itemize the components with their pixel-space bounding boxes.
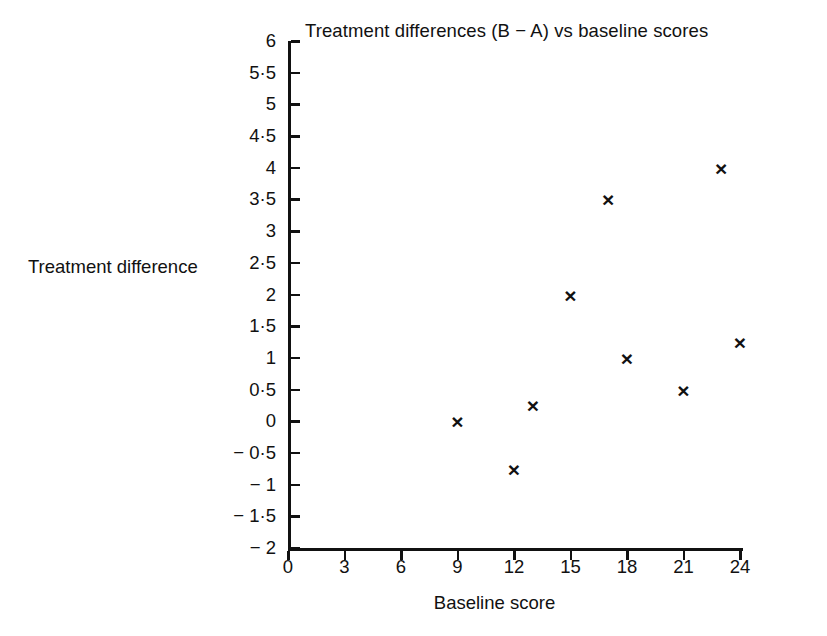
- x-tick-label: 9: [452, 558, 462, 577]
- y-tick-label: 1: [266, 349, 276, 368]
- x-tick-label-group: 03691215182124: [288, 558, 740, 588]
- x-axis-label: Baseline score: [434, 592, 555, 613]
- y-tick-label: 5·5: [249, 64, 276, 83]
- y-tick-label-group: 65·554·543·532·521·510·50− 0·5− 1− 1·5− …: [222, 41, 276, 548]
- y-tick: [291, 294, 300, 297]
- y-tick-label: 0·5: [249, 381, 276, 400]
- data-point-marker: ×: [621, 347, 633, 368]
- y-tick-label: − 2: [250, 539, 276, 558]
- y-tick: [291, 420, 300, 423]
- y-tick: [291, 484, 300, 487]
- data-point-marker: ×: [451, 411, 463, 432]
- y-tick: [291, 167, 300, 170]
- y-tick: [291, 452, 300, 455]
- y-axis-spine: [288, 41, 291, 551]
- x-tick: [400, 551, 403, 560]
- y-tick-label: 2: [266, 286, 276, 305]
- x-tick: [739, 551, 742, 560]
- y-tick: [291, 198, 300, 201]
- y-tick-label: 4: [266, 159, 276, 178]
- y-tick-label: − 0·5: [233, 444, 276, 463]
- x-axis-spine: [288, 548, 743, 551]
- y-tick-label: 4·5: [249, 127, 276, 146]
- y-tick-label: − 1: [250, 476, 276, 495]
- data-point-marker: ×: [508, 458, 520, 479]
- y-tick: [291, 262, 300, 265]
- x-tick-label: 6: [396, 558, 406, 577]
- y-tick-label: 6: [266, 32, 276, 51]
- y-tick-label: 1·5: [249, 317, 276, 336]
- chart-title: Treatment differences (B − A) vs baselin…: [305, 20, 708, 42]
- data-point-marker: ×: [734, 332, 746, 353]
- y-tick-label: 2·5: [249, 254, 276, 273]
- data-point-marker: ×: [715, 157, 727, 178]
- y-tick-label: 0: [266, 412, 276, 431]
- y-tick: [291, 103, 300, 106]
- data-point-marker: ×: [527, 395, 539, 416]
- y-axis-label: Treatment difference: [28, 256, 198, 278]
- y-tick: [291, 72, 300, 75]
- y-tick: [291, 135, 300, 138]
- x-tick: [683, 551, 686, 560]
- y-tick: [291, 40, 300, 43]
- y-tick: [291, 547, 300, 550]
- x-tick-label: 0: [283, 558, 293, 577]
- y-tick-label: 3: [266, 222, 276, 241]
- y-tick-label: 5: [266, 95, 276, 114]
- x-tick-label: 15: [560, 558, 581, 577]
- x-axis-label-container: Baseline score: [0, 592, 827, 614]
- y-tick: [291, 230, 300, 233]
- x-tick-label: 3: [339, 558, 349, 577]
- data-point-marker: ×: [602, 189, 614, 210]
- data-point-marker: ×: [564, 284, 576, 305]
- y-tick: [291, 325, 300, 328]
- x-tick-label: 21: [673, 558, 694, 577]
- data-point-marker: ×: [677, 379, 689, 400]
- y-tick-label: − 1·5: [233, 507, 276, 526]
- x-tick: [570, 551, 573, 560]
- x-tick-label: 18: [617, 558, 638, 577]
- plot-area: ×××××××××: [288, 41, 740, 548]
- x-tick: [626, 551, 629, 560]
- x-tick: [513, 551, 516, 560]
- x-tick: [287, 551, 290, 560]
- x-tick-label: 24: [730, 558, 751, 577]
- y-tick: [291, 515, 300, 518]
- x-tick-label: 12: [504, 558, 525, 577]
- y-tick-label: 3·5: [249, 190, 276, 209]
- scatter-chart-figure: Treatment differences (B − A) vs baselin…: [0, 0, 827, 636]
- y-tick: [291, 357, 300, 360]
- x-tick: [344, 551, 347, 560]
- x-tick: [457, 551, 460, 560]
- y-tick: [291, 389, 300, 392]
